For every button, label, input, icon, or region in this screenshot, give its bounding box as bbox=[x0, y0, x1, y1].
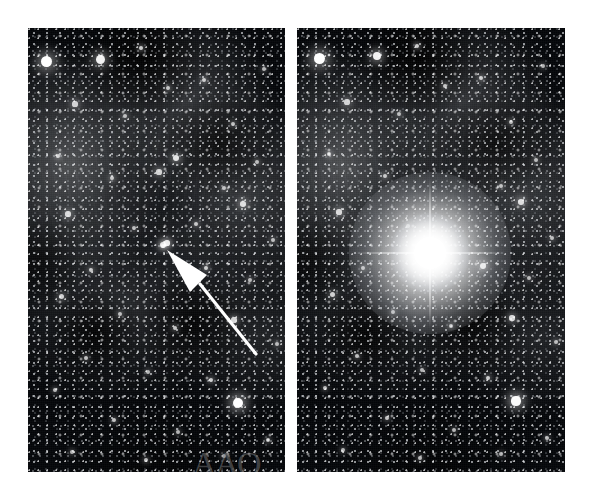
star-point bbox=[509, 315, 514, 320]
star-point bbox=[397, 112, 401, 116]
starfield-after bbox=[297, 28, 565, 472]
star-point bbox=[554, 340, 558, 344]
star-point bbox=[72, 101, 77, 106]
star-point bbox=[518, 199, 524, 205]
star-point bbox=[164, 240, 169, 245]
star-point bbox=[41, 56, 52, 67]
star-point bbox=[59, 294, 64, 299]
starfield-before bbox=[28, 28, 285, 472]
star-point bbox=[341, 448, 345, 452]
star-point bbox=[262, 67, 266, 71]
star-point bbox=[344, 99, 349, 104]
star-point bbox=[420, 368, 424, 372]
star-point bbox=[330, 292, 335, 297]
star-point bbox=[96, 55, 105, 64]
star-point bbox=[233, 398, 243, 408]
star-point bbox=[314, 53, 325, 64]
star-point bbox=[123, 114, 127, 118]
star-point bbox=[255, 160, 259, 164]
star-point bbox=[132, 226, 136, 230]
star-saturated-center bbox=[414, 237, 446, 269]
star-point bbox=[534, 158, 538, 162]
star-point bbox=[452, 428, 456, 432]
star-point bbox=[541, 64, 545, 68]
star-point bbox=[275, 342, 279, 346]
star-point bbox=[527, 276, 531, 280]
film-grain bbox=[28, 28, 285, 472]
aao-watermark: AAO bbox=[192, 442, 285, 472]
star-point bbox=[176, 430, 180, 434]
star-point bbox=[240, 201, 246, 207]
star-point bbox=[248, 278, 252, 282]
star-point bbox=[146, 370, 150, 374]
star-point bbox=[156, 169, 161, 174]
astronomy-figure: AAO bbox=[0, 0, 594, 497]
star-point bbox=[336, 209, 341, 214]
star-point bbox=[511, 396, 520, 405]
star-point bbox=[70, 450, 74, 454]
after-panel[interactable] bbox=[297, 28, 565, 472]
before-panel[interactable]: AAO bbox=[28, 28, 285, 472]
star-point bbox=[231, 317, 236, 322]
star-point bbox=[65, 211, 70, 216]
star-point bbox=[499, 452, 503, 456]
